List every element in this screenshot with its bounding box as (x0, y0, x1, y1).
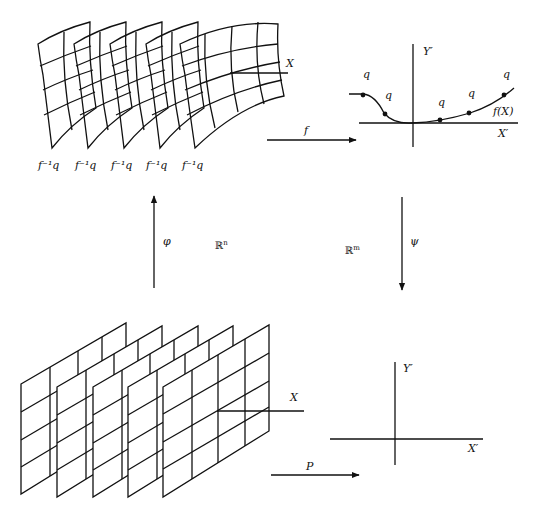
warped-grid-sheets (38, 22, 284, 148)
warped-sheet-3 (110, 22, 168, 148)
warped-sheet-5 (180, 22, 284, 148)
commutative-diagram: X f⁻¹q f⁻¹q f⁻¹q f⁻¹q f⁻¹q Y′ X′ f(X) q … (0, 0, 534, 519)
warped-sheet-1 (38, 22, 96, 148)
label-q-4: q (468, 88, 475, 99)
r-n-exponent: n (223, 239, 228, 247)
label-preimage-5: f⁻¹q (182, 160, 203, 171)
label-q-3: q (438, 97, 445, 108)
label-y-prime-top: Y′ (423, 46, 433, 57)
flat-grid-sheets (21, 323, 269, 497)
label-f-of-x: f(X) (493, 106, 514, 117)
label-x-prime-bottom: X′ (468, 443, 478, 454)
graph-bottom-right (330, 362, 483, 465)
label-y-prime-bottom: Y′ (403, 363, 413, 374)
label-q-2: q (385, 90, 392, 101)
label-q-1: q (363, 69, 370, 80)
label-x-prime-top: X′ (498, 128, 508, 139)
warped-sheet-4 (146, 22, 204, 148)
label-preimage-2: f⁻¹q (75, 160, 96, 171)
label-p: P (306, 461, 313, 472)
curve-f-of-x (349, 88, 514, 123)
label-x-bottom: X (290, 392, 298, 403)
label-psi: ψ (410, 236, 419, 247)
diagram-graphics (0, 0, 534, 519)
label-x-top: X (286, 58, 294, 69)
label-f: f (304, 125, 308, 136)
graph-top-right (349, 44, 518, 147)
r-m-exponent: m (353, 244, 360, 252)
label-preimage-4: f⁻¹q (146, 160, 167, 171)
label-r-m: ℝm (345, 245, 360, 256)
label-preimage-1: f⁻¹q (38, 160, 59, 171)
label-q-5: q (503, 69, 510, 80)
label-r-n: ℝn (215, 240, 228, 251)
warped-sheet-2 (74, 22, 132, 148)
label-preimage-3: f⁻¹q (111, 160, 132, 171)
label-phi: φ (163, 236, 171, 247)
